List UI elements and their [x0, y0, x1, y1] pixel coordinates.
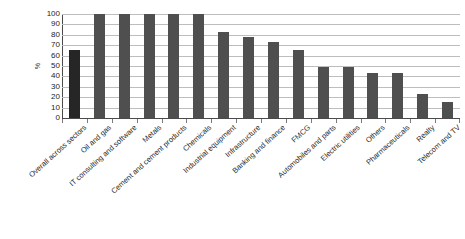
x-axis-category-labels: Overall across sectorsOil and gasIT cons…: [62, 123, 460, 235]
bar[interactable]: [69, 50, 80, 118]
y-axis-tick-label: 0: [40, 114, 60, 122]
y-axis-tick-label: 30: [40, 83, 60, 91]
bar[interactable]: [392, 73, 403, 118]
y-axis-tick-label: 80: [40, 31, 60, 39]
y-axis-tick-label: 60: [40, 52, 60, 60]
y-axis-tick-label: 70: [40, 41, 60, 49]
bar-slot: [112, 14, 137, 118]
y-axis-tick-label: 10: [40, 104, 60, 112]
bar-slot: [162, 14, 187, 118]
bar[interactable]: [119, 14, 130, 118]
y-axis-tick-label: 90: [40, 20, 60, 28]
bar-slot: [87, 14, 112, 118]
bar-slot: [361, 14, 386, 118]
bar-slot: [410, 14, 435, 118]
bar-chart: % 1009080706050403020100 Overall across …: [0, 0, 465, 239]
bar[interactable]: [193, 14, 204, 118]
bar[interactable]: [243, 37, 254, 118]
bar-slot: [435, 14, 460, 118]
bar[interactable]: [268, 42, 279, 118]
bar-slot: [236, 14, 261, 118]
bar-slot: [137, 14, 162, 118]
bar-slot: [261, 14, 286, 118]
bar[interactable]: [318, 67, 329, 118]
y-axis-tick-label: 20: [40, 93, 60, 101]
bar[interactable]: [343, 67, 354, 118]
bar[interactable]: [442, 102, 453, 118]
bar[interactable]: [293, 50, 304, 118]
x-axis-category-label: Realty: [415, 123, 437, 144]
y-axis-tick-label: 40: [40, 72, 60, 80]
x-axis-category-label: Metals: [141, 123, 163, 144]
y-axis-tick-labels: 1009080706050403020100: [40, 14, 60, 118]
bar[interactable]: [367, 73, 378, 118]
bar-series: [62, 14, 460, 118]
y-axis-tick-label: 50: [40, 62, 60, 70]
bar-slot: [286, 14, 311, 118]
bar[interactable]: [144, 14, 155, 118]
bar-slot: [62, 14, 87, 118]
bar-slot: [311, 14, 336, 118]
bar-slot: [336, 14, 361, 118]
bar[interactable]: [417, 94, 428, 118]
y-axis-tick-label: 100: [40, 10, 60, 18]
x-axis-category-label: FMCG: [290, 123, 312, 144]
bar[interactable]: [218, 32, 229, 118]
plot-area: [62, 14, 460, 118]
bar-slot: [211, 14, 236, 118]
bar-slot: [186, 14, 211, 118]
bar[interactable]: [168, 14, 179, 118]
bar-slot: [385, 14, 410, 118]
bar[interactable]: [94, 14, 105, 118]
